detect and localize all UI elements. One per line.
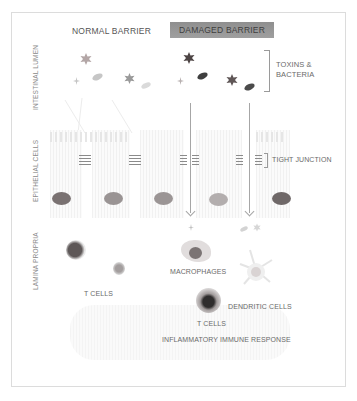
epithelial-cell: [50, 130, 82, 218]
toxin-icon: [183, 52, 195, 64]
sparkle-icon: [188, 224, 194, 231]
cell-nucleus: [272, 192, 291, 205]
tight-junction-icon: [79, 155, 91, 165]
toxins-label-line1: TOXINS &: [276, 60, 312, 70]
damaged-barrier-header: DAMAGED BARRIER: [170, 22, 274, 38]
intestinal-lumen-label: INTESTINAL LUMEN: [32, 45, 39, 110]
damaged-barrier-label: DAMAGED BARRIER: [179, 25, 265, 35]
cell-nucleus: [154, 192, 173, 205]
cell-nucleus: [209, 193, 228, 206]
tight-junction-icon: [255, 155, 262, 165]
epithelial-cells-label: EPITHELIAL CELLS: [32, 140, 39, 202]
tight-junction-icon: [192, 155, 199, 165]
cell-nucleus: [104, 192, 123, 205]
cell-nucleus: [52, 192, 71, 205]
tight-junction-bracket: [264, 153, 268, 168]
dendritic-cell-icon: [236, 248, 276, 288]
t-cells-label-center: T CELLS: [197, 320, 226, 327]
toxin-icon: [124, 73, 135, 84]
penetration-arrow: [190, 103, 191, 213]
normal-barrier-header: NORMAL BARRIER: [72, 26, 151, 36]
lamina-propria-label: LAMINA PROPRIA: [32, 232, 39, 290]
t-cell-icon: [196, 288, 221, 313]
dendritic-cells-label: DENDRITIC CELLS: [228, 303, 292, 310]
t-cell-icon: [113, 262, 125, 275]
sparkle-icon: [73, 77, 80, 85]
tight-junction-icon: [129, 155, 141, 165]
epithelial-cell: [256, 130, 290, 218]
toxin-icon: [80, 53, 92, 65]
t-cell-icon: [66, 240, 86, 260]
toxins-label-line2: BACTERIA: [276, 70, 314, 80]
tight-junction-icon: [236, 155, 243, 165]
t-cells-label-left: T CELLS: [84, 290, 113, 297]
microvilli: [256, 132, 286, 142]
macrophages-label: MACROPHAGES: [170, 268, 226, 275]
toxin-icon: [226, 74, 238, 86]
tight-junction-icon: [180, 155, 187, 165]
villi-outline: [60, 95, 150, 135]
tight-junction-label: TIGHT JUNCTION: [272, 156, 332, 163]
inflammation-zone: [70, 305, 290, 360]
inflammatory-response-label: INFLAMMATORY IMMUNE RESPONSE: [162, 336, 291, 343]
toxins-bracket: [264, 50, 270, 92]
toxin-icon: [253, 223, 261, 232]
macrophage-nucleus: [189, 247, 202, 259]
penetration-arrow: [249, 103, 250, 213]
microvilli: [50, 132, 130, 142]
sparkle-icon: [177, 77, 184, 85]
